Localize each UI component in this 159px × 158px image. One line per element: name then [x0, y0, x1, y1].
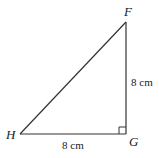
side-fg-length: 8 cm — [131, 76, 153, 88]
side-hf — [20, 22, 126, 134]
vertex-label-f: F — [123, 4, 133, 19]
right-angle-marker — [119, 127, 126, 134]
triangle-diagram: F G H 8 cm 8 cm — [0, 0, 159, 158]
vertex-label-h: H — [5, 127, 16, 142]
vertex-label-g: G — [129, 134, 139, 149]
side-hg-length: 8 cm — [62, 139, 84, 151]
